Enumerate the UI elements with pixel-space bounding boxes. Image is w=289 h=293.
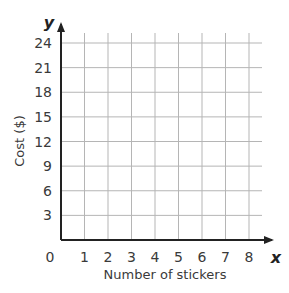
y-tick-label: 3 — [43, 207, 52, 223]
y-tick-label: 18 — [34, 84, 52, 100]
coordinate-grid-chart: 12345678 3691215182124 0 x y Number of s… — [0, 0, 289, 293]
x-tick-labels: 12345678 — [80, 249, 253, 265]
x-tick-label: 8 — [245, 249, 254, 265]
x-variable-label: x — [270, 248, 282, 267]
x-tick-label: 7 — [221, 249, 230, 265]
y-axis-label: Cost ($) — [12, 115, 27, 166]
x-tick-label: 2 — [104, 249, 113, 265]
x-axis-label: Number of stickers — [104, 267, 227, 282]
x-tick-label: 3 — [127, 249, 136, 265]
y-tick-label: 9 — [43, 158, 52, 174]
origin-label: 0 — [46, 249, 55, 265]
y-tick-label: 6 — [43, 183, 52, 199]
x-tick-label: 1 — [80, 249, 89, 265]
x-tick-label: 5 — [174, 249, 183, 265]
y-tick-label: 21 — [34, 60, 52, 76]
y-tick-label: 15 — [34, 109, 52, 125]
grid-lines — [61, 33, 262, 240]
x-tick-label: 4 — [151, 249, 160, 265]
y-tick-label: 12 — [34, 134, 52, 150]
y-tick-label: 24 — [34, 35, 52, 51]
y-tick-labels: 3691215182124 — [34, 35, 52, 223]
x-tick-label: 6 — [198, 249, 207, 265]
y-variable-label: y — [44, 13, 55, 32]
